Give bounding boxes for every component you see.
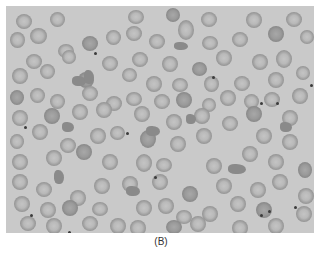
red-blood-cell [170,136,186,152]
red-blood-cell [82,36,98,51]
red-blood-cell [32,124,48,140]
red-blood-cell [282,134,298,150]
red-blood-cell [201,12,217,27]
red-blood-cell [106,30,121,45]
red-blood-cell [250,182,266,198]
red-blood-cell [132,52,148,67]
red-blood-cell [60,138,76,153]
platelet-dot [260,214,263,217]
red-blood-cell [268,26,284,42]
red-blood-cell [256,128,272,144]
red-blood-cell [156,158,172,172]
schistocyte-fragment [146,126,160,136]
platelet-dot [94,52,97,55]
red-blood-cell [216,178,232,194]
red-blood-cell [16,14,32,29]
red-blood-cell [44,108,60,124]
schistocyte-fragment [228,164,246,174]
red-blood-cell [300,30,314,44]
platelet-dot [310,84,313,87]
red-blood-cell [26,54,42,69]
schistocyte-fragment [186,114,196,124]
red-blood-cell [296,206,312,222]
red-blood-cell [102,154,118,170]
red-blood-cell [102,56,118,71]
red-blood-cell [172,78,188,92]
red-blood-cell [10,134,24,149]
schistocyte-fragment [280,122,292,132]
red-blood-cell [166,114,182,130]
red-blood-cell [12,174,28,190]
schistocyte-fragment [54,170,64,184]
red-blood-cell [46,150,62,166]
schistocyte-fragment [174,42,188,50]
red-blood-cell [216,50,232,66]
red-blood-cell [12,68,28,84]
red-blood-cell [92,202,108,216]
red-blood-cell [14,196,30,212]
red-blood-cell [146,76,162,92]
platelet-dot [24,126,27,129]
platelet-dot [212,76,215,79]
red-blood-cell [268,154,284,170]
red-blood-cell [149,34,165,49]
red-blood-cell [286,12,302,27]
red-blood-cell [110,126,125,140]
platelet-dot [68,231,71,233]
red-blood-cell [298,162,312,178]
red-blood-cell [72,104,88,120]
red-blood-cell [12,110,28,126]
red-blood-cell [194,108,210,124]
red-blood-cell [30,28,47,44]
platelet-dot [268,210,271,213]
red-blood-cell [110,218,126,233]
red-blood-cell [220,90,236,106]
red-blood-cell [272,174,288,190]
platelet-dot [126,132,129,135]
red-blood-cell [30,88,45,103]
red-blood-cell [10,90,24,105]
red-blood-cell [222,116,238,131]
red-blood-cell [192,62,207,76]
red-blood-cell [82,86,98,101]
red-blood-cell [50,94,65,109]
red-blood-cell [82,216,98,231]
platelet-dot [154,176,157,179]
red-blood-cell [130,220,146,233]
red-blood-cell [154,94,170,109]
red-blood-cell [136,200,152,216]
red-blood-cell [232,220,248,233]
platelet-dot [260,102,263,105]
red-blood-cell [10,32,25,48]
red-blood-cell [242,146,258,162]
red-blood-cell [40,64,55,79]
red-blood-cell [232,32,248,47]
red-blood-cell [182,186,198,202]
platelet-dot [276,102,279,105]
red-blood-cell [292,88,308,104]
platelet-dot [294,206,297,209]
figure-caption: (B) [0,236,322,247]
red-blood-cell [166,220,182,233]
red-blood-cell [62,200,78,216]
schistocyte-fragment [84,70,94,84]
red-blood-cell [246,12,262,28]
red-blood-cell [298,188,314,204]
blood-smear-micrograph [6,6,314,233]
schistocyte-fragment [62,122,74,132]
red-blood-cell [234,76,250,91]
red-blood-cell [36,182,52,197]
red-blood-cell [50,12,65,27]
red-blood-cell [46,218,62,233]
red-blood-cell [122,68,137,82]
red-blood-cell [126,26,142,41]
red-blood-cell [276,50,292,68]
red-blood-cell [230,196,246,212]
red-blood-cell [134,106,150,122]
red-blood-cell [162,56,178,72]
red-blood-cell [126,92,142,106]
red-blood-cell [166,8,180,22]
red-blood-cell [90,128,106,144]
red-blood-cell [206,158,222,174]
red-blood-cell [296,66,310,80]
